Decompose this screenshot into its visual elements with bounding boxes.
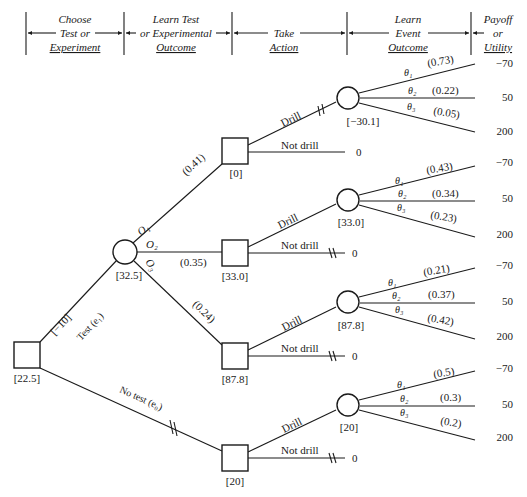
root-decision-node [14, 342, 40, 368]
not-drill-payoff: 0 [352, 452, 358, 464]
decision-node-3 [222, 343, 248, 369]
no-test-branch-label: No test (e₀) [118, 384, 165, 414]
theta3-label: θ₃ [400, 407, 409, 418]
outcome-o2-prob: (0.35) [180, 256, 207, 269]
not-drill-label: Not drill [281, 342, 319, 354]
theta3-label: θ₃ [397, 202, 406, 213]
outcome-o3-label: O₃ [143, 256, 160, 273]
payoff-value: 200 [497, 330, 514, 342]
payoff-value: −70 [496, 156, 514, 168]
event-node-1-value: [−30.1] [347, 115, 380, 127]
decision-1-branches: Drill Not drill 0 [248, 102, 362, 158]
theta1-label: θ₁ [388, 277, 396, 288]
drill-label: Drill [280, 415, 304, 435]
event-chance-node-3 [337, 291, 359, 313]
header-col3-line2: Take [274, 27, 294, 39]
decision-node-3-value: [87.8] [222, 373, 249, 385]
test-outcome-chance-node [113, 240, 137, 264]
decision-4-branches: Drill Not drill 0 [248, 410, 358, 464]
test-outcome-branches: O₁ (0.41) O₂ (0.35) O₃ (0.24) [133, 151, 222, 345]
header-col5-line3: Utility [484, 41, 512, 53]
theta3-prob: (0.2) [439, 414, 462, 431]
theta3-label: θ₃ [395, 304, 404, 315]
payoff-value: −70 [496, 57, 514, 69]
header-col5-line2: or [493, 27, 504, 39]
test-outcome-value: [32.5] [116, 269, 143, 281]
event-node-3-value: [87.8] [338, 319, 365, 331]
drill-label: Drill [279, 109, 303, 129]
decision-node-2-value: [33.0] [222, 270, 249, 282]
no-test-branch-line [40, 368, 222, 451]
decision-2-branches: Drill Not drill 0 [248, 204, 358, 259]
payoff-value: 50 [502, 295, 514, 307]
theta1-prob: (0.73) [426, 52, 455, 69]
decision-3-branches: Drill Not drill 0 [248, 307, 358, 362]
not-drill-label: Not drill [281, 239, 319, 251]
not-drill-payoff: 0 [356, 146, 362, 158]
test-branch-label: Test (e₁) [74, 310, 106, 343]
event-2-branches: θ₁ (0.43) θ₂ (0.34) θ₃ (0.23) −70 50 200 [359, 156, 514, 240]
event-node-4-value: [20] [340, 421, 358, 433]
not-drill-payoff: 0 [352, 350, 358, 362]
decision-node-4 [222, 445, 248, 471]
theta3-prob: (0.23) [429, 208, 458, 225]
theta2-prob: (0.22) [432, 84, 459, 97]
decision-tree-diagram: Choose Test or Experiment Learn Test or … [0, 0, 527, 497]
payoff-value: 200 [497, 228, 514, 240]
theta1-label: θ₁ [404, 67, 412, 78]
not-drill-label: Not drill [281, 139, 319, 151]
event-node-2-value: [33.0] [338, 216, 365, 228]
header-col4-line3: Outcome [388, 41, 428, 53]
header-col4-line1: Learn [394, 13, 422, 25]
event-chance-node-4 [337, 394, 359, 416]
theta2-prob: (0.3) [440, 391, 461, 404]
theta3-label: θ₃ [407, 101, 416, 112]
payoff-value: −70 [496, 259, 514, 271]
header-col2-line1: Learn Test [152, 13, 200, 25]
event-chance-node-1 [337, 87, 359, 109]
decision-node-4-value: [20] [226, 475, 244, 487]
header-col1-line1: Choose [59, 13, 92, 25]
test-cost-label: [−10] [48, 311, 74, 337]
theta3-prob: (0.05) [432, 104, 461, 121]
not-drill-label: Not drill [281, 444, 319, 456]
header-col5-line1: Payoff [483, 13, 515, 25]
payoff-value: 200 [497, 125, 514, 137]
outcome-o1-label: O₁ [135, 221, 152, 238]
header-col4-line2: Event [394, 27, 421, 39]
outcome-o3-line [134, 261, 222, 345]
theta2-prob: (0.34) [432, 187, 459, 200]
outcome-o2-label: O₂ [146, 238, 158, 250]
not-drill-payoff: 0 [352, 247, 358, 259]
header-col1-line2: Test or [60, 27, 91, 39]
header-col2-line3: Outcome [156, 41, 196, 53]
payoff-value: −70 [496, 362, 514, 374]
theta1-label: θ₁ [395, 175, 403, 186]
root-value: [22.5] [14, 372, 41, 384]
outcome-o1-prob: (0.41) [179, 151, 208, 179]
decision-node-2 [222, 240, 248, 266]
event-theta1-line [359, 268, 475, 297]
theta2-label: θ₂ [392, 290, 401, 301]
stage-header: Choose Test or Experiment Learn Test or … [26, 12, 514, 55]
drill-label: Drill [280, 313, 304, 333]
theta1-prob: (0.21) [422, 261, 451, 278]
event-theta3-line [359, 307, 475, 339]
theta2-label: θ₂ [400, 393, 409, 404]
theta3-prob: (0.42) [426, 311, 455, 328]
payoff-value: 50 [502, 192, 514, 204]
root-branches: [−10] Test (e₁) No test (e₀) [40, 260, 222, 451]
event-chance-node-2 [337, 189, 359, 211]
theta1-label: θ₁ [397, 379, 405, 390]
decision-node-1-value: [0] [230, 167, 243, 179]
payoff-value: 200 [497, 431, 514, 443]
decision-node-1 [222, 138, 248, 164]
outcome-o3-prob: (0.24) [190, 298, 218, 326]
header-col2-line2: or Experimental [140, 27, 212, 39]
header-col3-line3: Action [269, 41, 299, 53]
theta2-label: θ₂ [408, 85, 417, 96]
theta2-prob: (0.37) [428, 288, 455, 301]
header-col1-line3: Experiment [49, 41, 102, 53]
payoff-value: 50 [502, 91, 514, 103]
event-3-branches: θ₁ (0.21) θ₂ (0.37) θ₃ (0.42) −70 50 200 [359, 259, 514, 342]
